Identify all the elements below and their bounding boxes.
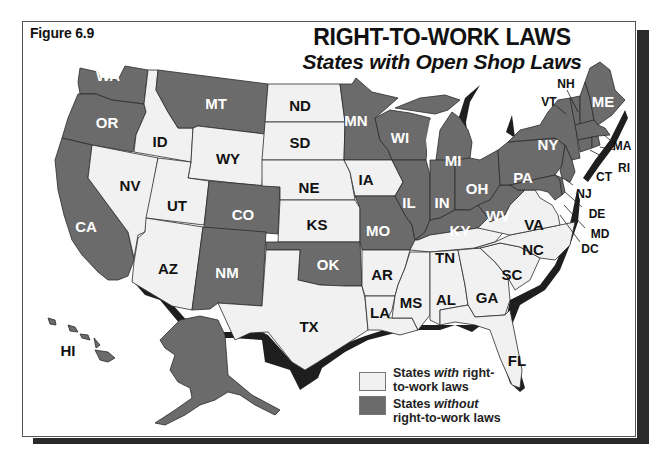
label-NH: NH: [557, 77, 574, 91]
label-MN: MN: [344, 112, 367, 129]
legend-text-post: right-: [459, 366, 494, 380]
legend-text-line2: right-to-work laws: [393, 411, 501, 425]
map-subtitle: States with Open Shop Laws: [262, 50, 622, 74]
legend-label-with: States with right- to-work laws: [393, 366, 543, 394]
label-NY: NY: [538, 136, 559, 153]
label-MD: MD: [591, 227, 610, 241]
label-NM: NM: [215, 264, 238, 281]
label-LA: LA: [370, 304, 390, 321]
legend-label-without: States without right-to-work laws: [393, 397, 543, 425]
label-ME: ME: [592, 93, 615, 110]
label-KY: KY: [450, 222, 471, 239]
label-NV: NV: [120, 177, 141, 194]
label-SC: SC: [502, 266, 523, 283]
label-MS: MS: [400, 294, 423, 311]
label-IL: IL: [402, 194, 415, 211]
label-VA: VA: [524, 216, 544, 233]
label-HI: HI: [61, 342, 76, 359]
legend-text-em: without: [434, 397, 478, 411]
state-RI[interactable]: [592, 136, 600, 148]
label-DE: DE: [589, 207, 606, 221]
state-CT[interactable]: [578, 137, 592, 152]
label-NJ: NJ: [576, 187, 591, 201]
label-RI: RI: [618, 161, 630, 175]
label-WV: WV: [486, 207, 510, 224]
label-VT: VT: [541, 95, 557, 109]
state-IN[interactable]: [430, 160, 455, 220]
label-TX: TX: [299, 318, 318, 335]
label-IN: IN: [435, 194, 450, 211]
state-HI[interactable]: [48, 318, 115, 362]
label-OK: OK: [317, 256, 340, 273]
legend-swatch-dark: [359, 396, 386, 415]
label-NC: NC: [522, 241, 544, 258]
label-OR: OR: [96, 114, 119, 131]
legend-text-line2: to-work laws: [393, 380, 469, 394]
label-CO: CO: [232, 206, 255, 223]
legend-text-pre: States: [393, 397, 434, 411]
label-SD: SD: [290, 134, 311, 151]
label-PA: PA: [513, 169, 533, 186]
label-WI: WI: [391, 129, 409, 146]
label-AR: AR: [371, 266, 393, 283]
label-MO: MO: [366, 222, 390, 239]
label-MA: MA: [613, 139, 632, 153]
label-AL: AL: [436, 291, 456, 308]
label-AK: AK: [112, 338, 134, 355]
label-UT: UT: [167, 197, 187, 214]
label-CA: CA: [75, 218, 97, 235]
figure-number: Figure 6.9: [30, 25, 94, 41]
label-TN: TN: [435, 249, 455, 266]
label-MI: MI: [445, 152, 462, 169]
label-OH: OH: [466, 180, 489, 197]
label-IA: IA: [359, 171, 374, 188]
label-ID: ID: [153, 133, 168, 150]
label-ND: ND: [289, 97, 311, 114]
label-DC: DC: [581, 242, 599, 256]
legend-text-pre: States: [393, 366, 434, 380]
legend-swatch-light: [359, 372, 386, 391]
label-MT: MT: [205, 95, 227, 112]
legend-text-em: with: [434, 366, 459, 380]
label-AZ: AZ: [158, 260, 178, 277]
label-KS: KS: [307, 216, 328, 233]
label-GA: GA: [476, 289, 499, 306]
label-NE: NE: [299, 179, 320, 196]
map-title: RIGHT-TO-WORK LAWS: [262, 24, 622, 51]
label-CT: CT: [596, 170, 613, 184]
label-WY: WY: [216, 150, 240, 167]
label-WA: WA: [96, 67, 120, 84]
